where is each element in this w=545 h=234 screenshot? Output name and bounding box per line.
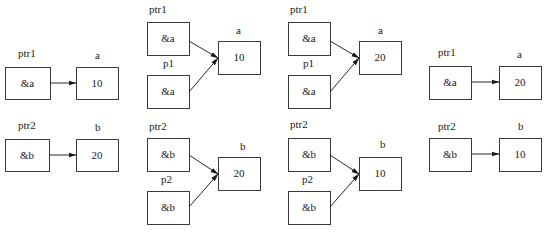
variable-name-b: b [518, 120, 524, 132]
variable-name-ptr1: ptr1 [18, 47, 36, 59]
variable-name-b: b [95, 121, 101, 133]
variable-value-p1: &a [161, 85, 175, 97]
variable-value-ptr2: &b [161, 148, 176, 160]
arrow-p2-to-b [330, 174, 359, 207]
variable-value-ptr1: &a [21, 77, 35, 89]
variable-value-ptr2: &b [20, 149, 35, 161]
panels: ptr1&aa10ptr2&bb20ptr1&ap1&aa10ptr2&bp2&… [6, 3, 542, 225]
arrow-ptr1-to-a [330, 41, 359, 58]
variable-value-b: 10 [375, 167, 387, 179]
variable-name-ptr2: ptr2 [438, 120, 456, 132]
pointer-diagram: ptr1&aa10ptr2&bb20ptr1&ap1&aa10ptr2&bp2&… [0, 0, 545, 234]
variable-value-a: 10 [92, 77, 104, 89]
variable-name-ptr2: ptr2 [149, 120, 167, 132]
variable-value-p1: &a [302, 85, 316, 97]
variable-name-a: a [517, 48, 522, 60]
arrow-ptr1-to-a [189, 41, 218, 58]
variable-value-ptr2: &b [302, 148, 317, 160]
diagram-panel-2: ptr1&ap1&aa10ptr2&bp2&bb20 [148, 3, 261, 225]
variable-value-p2: &b [161, 201, 176, 213]
variable-value-a: 10 [234, 51, 246, 63]
variable-name-p1: p1 [303, 57, 314, 69]
variable-value-a: 20 [515, 76, 527, 88]
arrow-p1-to-a [330, 58, 359, 92]
variable-value-b: 20 [92, 149, 104, 161]
variable-name-b: b [240, 140, 246, 152]
arrow-p1-to-a [189, 58, 218, 92]
variable-name-a: a [236, 24, 241, 36]
variable-name-p2: p2 [302, 173, 313, 185]
variable-value-b: 10 [515, 148, 527, 160]
variable-name-ptr1: ptr1 [438, 46, 456, 58]
variable-name-p2: p2 [161, 173, 172, 185]
variable-value-ptr1: &a [161, 32, 175, 44]
variable-name-b: b [380, 138, 386, 150]
variable-name-a: a [378, 24, 383, 36]
variable-value-ptr2: &b [443, 148, 458, 160]
variable-value-p2: &b [302, 201, 317, 213]
variable-name-a: a [95, 49, 100, 61]
variable-name-ptr1: ptr1 [149, 3, 167, 15]
variable-name-ptr2: ptr2 [290, 118, 308, 130]
arrow-p2-to-b [189, 174, 218, 207]
diagram-panel-3: ptr1&ap1&aa20ptr2&bp2&bb10 [289, 3, 402, 225]
variable-value-ptr1: &a [443, 76, 457, 88]
variable-name-ptr2: ptr2 [18, 119, 36, 131]
arrow-ptr2-to-b [189, 155, 218, 174]
arrow-ptr2-to-b [330, 155, 359, 174]
variable-value-a: 20 [375, 51, 387, 63]
variable-value-ptr1: &a [302, 32, 316, 44]
diagram-panel-1: ptr1&aa10ptr2&bb20 [6, 47, 119, 172]
variable-name-ptr1: ptr1 [290, 3, 308, 15]
variable-value-b: 20 [234, 167, 246, 179]
variable-name-p1: p1 [163, 57, 174, 69]
diagram-panel-4: ptr1&aa20ptr2&bb10 [430, 46, 542, 172]
